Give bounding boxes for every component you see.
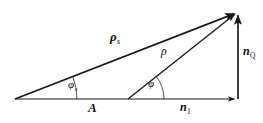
vector-rho: [128, 14, 235, 99]
label-phi-s: φs: [68, 79, 77, 90]
label-rho-s: ρs: [110, 30, 120, 43]
angle-arc-phi: [156, 77, 164, 99]
label-n-q: nQ: [243, 45, 255, 57]
label-segment-a: A: [88, 101, 97, 114]
label-n1: n1: [180, 101, 190, 113]
label-phi: φ: [148, 78, 154, 89]
diagram-canvas: [0, 0, 263, 123]
vector-rho-s: [15, 14, 235, 99]
vector-diagram-figure: ρs ρ φs φ A n1 nQ: [0, 0, 263, 123]
label-rho: ρ: [161, 45, 167, 57]
